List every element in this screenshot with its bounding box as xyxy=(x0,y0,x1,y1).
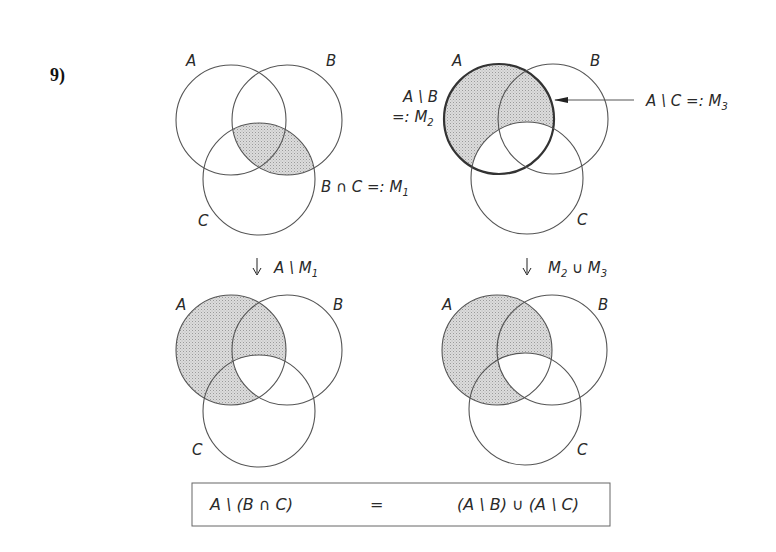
label-c: C xyxy=(577,441,588,459)
label-c: C xyxy=(198,212,209,230)
label-b: B xyxy=(326,52,336,70)
label-c: C xyxy=(192,441,203,459)
label-b: B xyxy=(590,52,600,70)
label-b: B xyxy=(333,296,343,314)
label-a: A xyxy=(441,296,452,314)
formula-box: A \ (B ∩ C) = (A \ B) ∪ (A \ C) xyxy=(192,483,610,526)
venn-top-right: A B C A \ B =: M2 A \ C =: M3 xyxy=(392,52,728,234)
venn-top-left: A B C B ∩ C =: M1 xyxy=(176,52,409,235)
label-a: A xyxy=(175,296,186,314)
shaded-a-minus-m1 xyxy=(176,295,286,405)
label-c: C xyxy=(577,211,588,229)
venn-diagram-figure: 9) A B C B ∩ C =: M1 A B C A \ B =: M2 A… xyxy=(0,0,776,552)
venn-bottom-right: A B C xyxy=(441,295,608,465)
formula-rhs: (A \ B) ∪ (A \ C) xyxy=(457,495,579,514)
annotation-m1: B ∩ C =: M1 xyxy=(321,178,409,198)
label-a: A xyxy=(451,52,462,70)
formula-equals: = xyxy=(370,495,383,514)
problem-number: 9) xyxy=(50,65,65,86)
step-arrow-left: A \ M1 xyxy=(253,258,318,279)
annotation-m3: A \ C =: M3 xyxy=(645,92,728,112)
formula-lhs: A \ (B ∩ C) xyxy=(209,495,293,514)
venn-bottom-left: A B C xyxy=(175,295,343,467)
shaded-b-intersect-c xyxy=(203,123,315,235)
label-b: B xyxy=(598,296,608,314)
step-label-left: A \ M1 xyxy=(273,259,318,279)
step-label-right: M2 ∪ M3 xyxy=(548,259,607,279)
annotation-a-minus-b: A \ B xyxy=(402,88,438,106)
label-a: A xyxy=(185,52,196,70)
annotation-m2: =: M2 xyxy=(392,108,434,128)
step-arrow-right: M2 ∪ M3 xyxy=(523,258,607,279)
